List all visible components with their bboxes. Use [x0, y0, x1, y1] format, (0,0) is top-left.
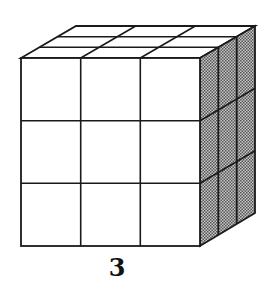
cube-front-face: [21, 58, 200, 246]
figure-label: 3: [0, 253, 234, 282]
cube-diagram: [0, 0, 274, 287]
cube-side-face: [200, 26, 255, 246]
